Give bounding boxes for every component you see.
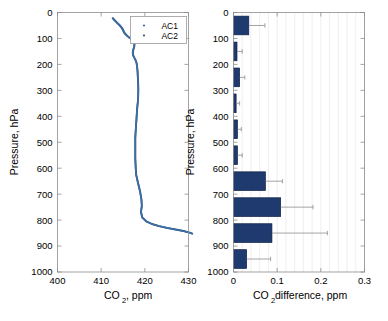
left-x-tick-label: 420 [137,275,153,286]
bar [234,224,272,243]
legend[interactable]: AC1 AC2 [131,17,187,44]
right-y-tick-label: 700 [213,189,229,200]
left-y-tick-label: 800 [37,215,53,226]
right-y-tick-label: 500 [213,137,229,148]
left-y-tick-label: 600 [37,163,53,174]
right-y-tick-label: 0 [223,7,228,18]
left-y-tick-label: 200 [37,59,53,70]
left-y-tick-label: 900 [37,240,53,251]
figure-container: 01002003004005006007008009001000 4004104… [0,0,388,321]
right-y-tick-label: 400 [213,111,229,122]
left-y-axis-label: Pressure, hPa [8,109,20,176]
bar [234,120,238,139]
bar [234,172,266,191]
left-y-tick-label: 0 [47,7,52,18]
right-x-tick-label: 0.1 [271,275,284,286]
legend-label-ac2: AC2 [161,31,178,41]
bar [234,42,237,61]
left-y-tick-label: 700 [37,189,53,200]
left-x-tick-label: 410 [93,275,109,286]
left-y-tick-label: 300 [37,85,53,96]
bar [234,68,240,87]
left-y-tick-label: 100 [37,33,53,44]
legend-marker-ac1-icon [143,24,145,26]
left-x-axis-label-rest: , ppm [126,289,153,301]
left-y-tick-label: 500 [37,137,53,148]
right-x-tick-label: 0.3 [358,275,371,286]
right-y-axis-label: Pressure, hPa [184,109,196,176]
right-x-tick-label: 0.2 [314,275,327,286]
left-x-tick-label: 430 [181,275,197,286]
legend-marker-ac2-icon [143,34,145,36]
right-y-tick-label: 900 [213,240,229,251]
right-y-tick-label: 1000 [207,266,228,277]
co2-profile-svg: 01002003004005006007008009001000 4004104… [0,0,388,321]
bar [234,250,247,269]
left-x-axis-label-base: CO [104,289,120,301]
right-y-tick-label: 100 [213,33,229,44]
bar [234,198,281,217]
right-y-tick-label: 200 [213,59,229,70]
left-x-tick-label: 400 [50,275,66,286]
left-y-tick-label: 400 [37,111,53,122]
bar [234,146,238,165]
legend-box [131,17,187,44]
right-x-tick-label: 0 [231,275,236,286]
right-y-tick-label: 600 [213,163,229,174]
legend-label-ac1: AC1 [161,21,178,31]
right-x-axis-label-rest: difference, ppm [275,289,347,301]
right-x-axis-label-base: CO [253,289,269,301]
right-y-tick-label: 300 [213,85,229,96]
right-y-tick-label: 800 [213,215,229,226]
bar [234,16,249,35]
